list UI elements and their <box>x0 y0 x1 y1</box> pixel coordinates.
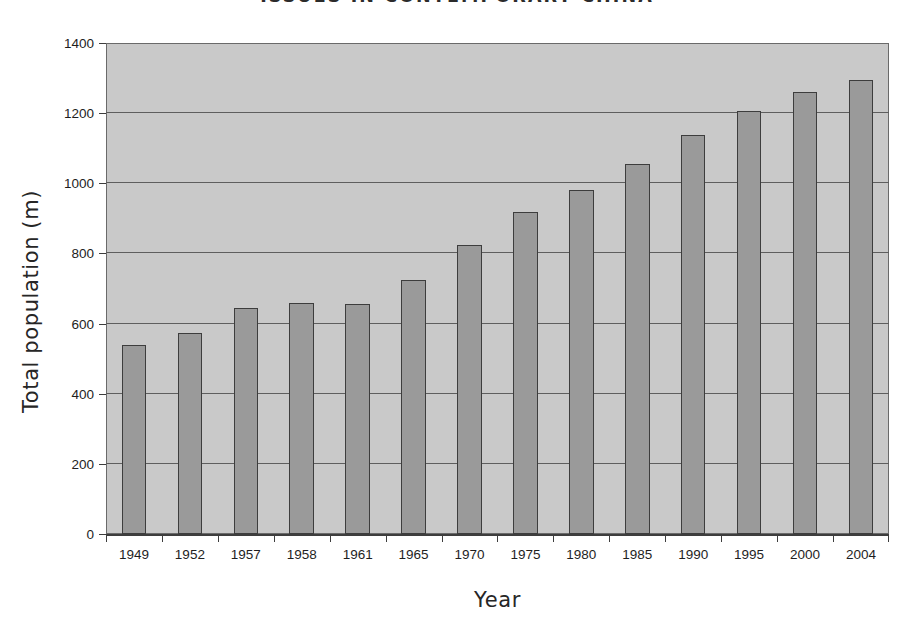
x-tick-slot: 1952 <box>162 534 218 580</box>
x-tick-mark-1990 <box>665 534 666 542</box>
x-tick-mark-1980 <box>553 534 554 542</box>
x-axis: 1949195219571958196119651970197519801985… <box>106 534 889 580</box>
x-tick-label-1949: 1949 <box>106 547 162 562</box>
bar-1990 <box>681 135 706 534</box>
x-tick-slot: 2004 <box>833 534 889 580</box>
y-tick-mark-600 <box>99 324 106 325</box>
x-tick-mark-1975 <box>497 534 498 542</box>
x-tick-mark-1961 <box>330 534 331 542</box>
bar-slot <box>553 43 609 534</box>
x-tick-label-2004: 2004 <box>833 547 889 562</box>
x-tick-label-1975: 1975 <box>497 547 553 562</box>
figure-page: ISSUES IN CONTEMPORARY CHINA Total popul… <box>0 0 914 637</box>
plot-area-wrapper <box>106 43 889 534</box>
x-tick-label-2000: 2000 <box>777 547 833 562</box>
x-tick-slot: 2000 <box>777 534 833 580</box>
bar-1975 <box>513 212 538 534</box>
y-tick-label-400: 400 <box>71 386 94 401</box>
y-axis: 1400120010008006004002000 <box>0 43 106 534</box>
bar-slot <box>665 43 721 534</box>
x-tick-slot: 1990 <box>665 534 721 580</box>
x-tick-slot: 1975 <box>497 534 553 580</box>
x-tick-label-1980: 1980 <box>553 547 609 562</box>
bar-2004 <box>849 80 874 534</box>
y-tick-mark-200 <box>99 464 106 465</box>
x-tick-slot: 1995 <box>721 534 777 580</box>
y-tick-label-600: 600 <box>71 316 94 331</box>
x-tick-slot: 1980 <box>553 534 609 580</box>
bar-slot <box>609 43 665 534</box>
bar-1995 <box>737 111 762 534</box>
bar-1957 <box>234 308 259 534</box>
bar-slot <box>442 43 498 534</box>
bar-slot <box>386 43 442 534</box>
bar-1970 <box>457 245 482 534</box>
x-tick-mark-2000 <box>777 534 778 542</box>
x-tick-mark-1952 <box>162 534 163 542</box>
x-tick-label-1965: 1965 <box>386 547 442 562</box>
x-tick-label-1961: 1961 <box>330 547 386 562</box>
x-tick-mark-1957 <box>218 534 219 542</box>
x-tick-mark-1970 <box>442 534 443 542</box>
bar-slot <box>106 43 162 534</box>
bar-slot <box>497 43 553 534</box>
bar-series <box>106 43 889 534</box>
bar-slot <box>218 43 274 534</box>
y-tick-mark-0 <box>99 534 106 535</box>
bar-slot <box>274 43 330 534</box>
y-tick-label-1400: 1400 <box>64 36 94 51</box>
x-tick-slot: 1970 <box>442 534 498 580</box>
x-tick-slot: 1958 <box>274 534 330 580</box>
y-tick-mark-800 <box>99 253 106 254</box>
bar-slot <box>777 43 833 534</box>
bar-1980 <box>569 190 594 534</box>
x-tick-mark-1958 <box>274 534 275 542</box>
bar-slot <box>162 43 218 534</box>
x-tick-mark-1949 <box>106 534 107 542</box>
x-tick-label-1985: 1985 <box>609 547 665 562</box>
x-tick-slot: 1949 <box>106 534 162 580</box>
x-tick-slot: 1961 <box>330 534 386 580</box>
x-tick-label-1952: 1952 <box>162 547 218 562</box>
y-tick-mark-1400 <box>99 43 106 44</box>
y-tick-label-200: 200 <box>71 456 94 471</box>
bar-2000 <box>793 92 818 534</box>
x-axis-ticks: 1949195219571958196119651970197519801985… <box>106 534 889 580</box>
x-tick-slot: 1965 <box>386 534 442 580</box>
x-tick-label-1990: 1990 <box>665 547 721 562</box>
y-tick-mark-1000 <box>99 183 106 184</box>
bar-1961 <box>345 304 370 534</box>
bar-slot <box>330 43 386 534</box>
x-tick-label-1958: 1958 <box>274 547 330 562</box>
x-tick-label-1970: 1970 <box>442 547 498 562</box>
bar-1949 <box>122 345 147 534</box>
x-tick-label-1995: 1995 <box>721 547 777 562</box>
bar-chart-figure: Total population (m) 1400120010008006004… <box>0 18 914 637</box>
x-tick-slot: 1985 <box>609 534 665 580</box>
x-tick-mark-end <box>888 534 889 542</box>
bar-1952 <box>178 333 203 534</box>
bar-1958 <box>289 303 314 534</box>
x-tick-mark-2004 <box>833 534 834 542</box>
x-axis-title: Year <box>105 588 890 612</box>
x-tick-mark-1965 <box>386 534 387 542</box>
y-tick-label-800: 800 <box>71 246 94 261</box>
x-tick-label-1957: 1957 <box>218 547 274 562</box>
y-tick-mark-400 <box>99 394 106 395</box>
x-tick-slot: 1957 <box>218 534 274 580</box>
bar-1965 <box>401 280 426 534</box>
bar-1985 <box>625 164 650 534</box>
running-head-text: ISSUES IN CONTEMPORARY CHINA <box>0 0 914 5</box>
y-tick-label-0: 0 <box>86 527 94 542</box>
y-tick-label-1000: 1000 <box>64 176 94 191</box>
y-tick-label-1200: 1200 <box>64 106 94 121</box>
y-tick-mark-1200 <box>99 113 106 114</box>
bar-slot <box>721 43 777 534</box>
running-head: ISSUES IN CONTEMPORARY CHINA <box>0 0 914 5</box>
x-tick-mark-1985 <box>609 534 610 542</box>
bar-slot <box>833 43 889 534</box>
x-tick-mark-1995 <box>721 534 722 542</box>
